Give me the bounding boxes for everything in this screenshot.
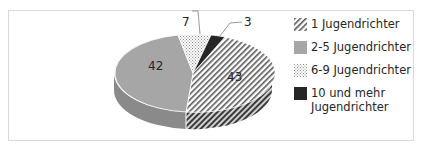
data-label-7: 7 [182,15,190,29]
legend-item-4: 10 und mehrJugendrichter [294,86,416,114]
legend-item-2: 2-5 Jugendrichter [294,40,416,54]
data-label-3: 3 [244,15,252,29]
data-label-43: 43 [227,70,242,84]
stripes-swatch-icon [294,18,307,31]
legend-item-3: 6-9 Jugendrichter [294,63,416,77]
leader-line-7 [192,11,200,34]
dotted-swatch-icon [294,64,307,77]
black-swatch-icon [294,87,307,100]
leader-line-3 [220,22,242,36]
legend-item-1: 1 Jugendrichter [294,17,416,31]
pie-top [115,34,275,112]
data-label-42: 42 [148,59,163,73]
grey-swatch-icon [294,41,307,54]
legend: 1 Jugendrichter 2-5 Jugendrichter 6-9 Ju… [294,17,416,123]
